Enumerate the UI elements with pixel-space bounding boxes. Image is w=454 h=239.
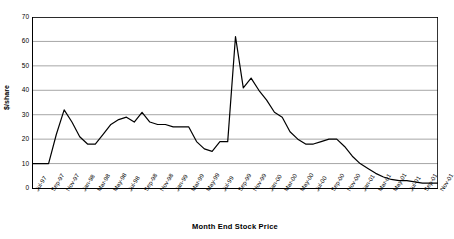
y-axis-tick-label: 20 xyxy=(14,136,29,143)
plot-area xyxy=(32,17,438,189)
y-axis-tick-label: 40 xyxy=(14,87,29,94)
plot-svg xyxy=(33,17,438,188)
x-axis-tick-label: Nov-01 xyxy=(439,173,454,193)
y-axis-title: $/share xyxy=(0,0,14,195)
y-axis-tick-label: 70 xyxy=(14,14,29,21)
y-axis-tick-label: 0 xyxy=(14,185,29,192)
y-axis-title-text: $/share xyxy=(4,85,11,110)
y-axis-tick-label: 10 xyxy=(14,160,29,167)
y-axis-tick-label: 60 xyxy=(14,38,29,45)
y-axis-tick-label: 30 xyxy=(14,111,29,118)
y-axis-tick-label: 50 xyxy=(14,63,29,70)
x-axis-tick-labels: Jul-97Sep-97Nov-97Jan-98Mar-98May-98Jul-… xyxy=(32,189,438,223)
x-axis-title: Month End Stock Price xyxy=(32,222,438,231)
data-series-line xyxy=(33,37,438,184)
y-axis-tick-labels: 010203040506070 xyxy=(14,12,31,192)
